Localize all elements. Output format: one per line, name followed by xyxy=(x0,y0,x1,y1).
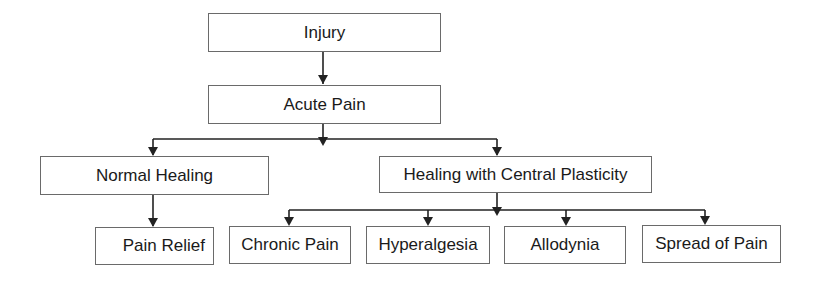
node-healing-central-plasticity: Healing with Central Plasticity xyxy=(379,156,652,193)
node-injury: Injury xyxy=(208,13,441,52)
node-label: Acute Pain xyxy=(283,95,365,115)
node-label: Normal Healing xyxy=(96,166,213,186)
pain-flowchart: Injury Acute Pain Normal Healing Healing… xyxy=(0,0,817,281)
node-label: Pain Relief xyxy=(123,236,205,256)
node-label: Spread of Pain xyxy=(655,234,767,254)
node-label: Healing with Central Plasticity xyxy=(404,165,628,185)
node-hyperalgesia: Hyperalgesia xyxy=(366,226,490,264)
node-label: Injury xyxy=(304,23,346,43)
node-chronic-pain: Chronic Pain xyxy=(229,226,351,264)
node-acute-pain: Acute Pain xyxy=(208,85,441,124)
node-normal-healing: Normal Healing xyxy=(40,156,269,195)
node-label: Hyperalgesia xyxy=(378,235,477,255)
node-label: Allodynia xyxy=(531,235,600,255)
node-spread-of-pain: Spread of Pain xyxy=(642,225,781,263)
node-label: Chronic Pain xyxy=(241,235,338,255)
node-pain-relief: Pain Relief xyxy=(95,227,214,265)
node-allodynia: Allodynia xyxy=(504,226,626,264)
